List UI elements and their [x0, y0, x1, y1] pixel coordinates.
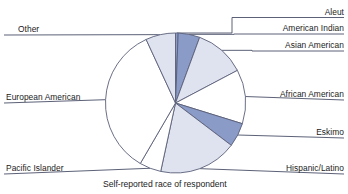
pie-label-pacific-islander: Pacific Islander: [6, 164, 64, 172]
pie-label-aleut: Aleut: [325, 8, 344, 16]
pie-chart-figure: Aleut American Indian Asian American Afr…: [0, 0, 348, 194]
pie-label-european-american: European American: [6, 93, 80, 101]
chart-caption: Self-reported race of respondent: [103, 180, 227, 189]
pie-label-other: Other: [18, 25, 39, 33]
pie-label-hispanic-latino: Hispanic/Latino: [286, 164, 344, 172]
pie-label-eskimo: Eskimo: [316, 128, 344, 136]
pie-label-american-indian: American Indian: [283, 24, 344, 32]
pie-slice-group: [106, 33, 246, 173]
pie-label-african-american: African American: [280, 90, 344, 98]
pie-label-asian-american: Asian American: [285, 41, 344, 49]
leader-line-asian-american: [222, 50, 344, 51]
